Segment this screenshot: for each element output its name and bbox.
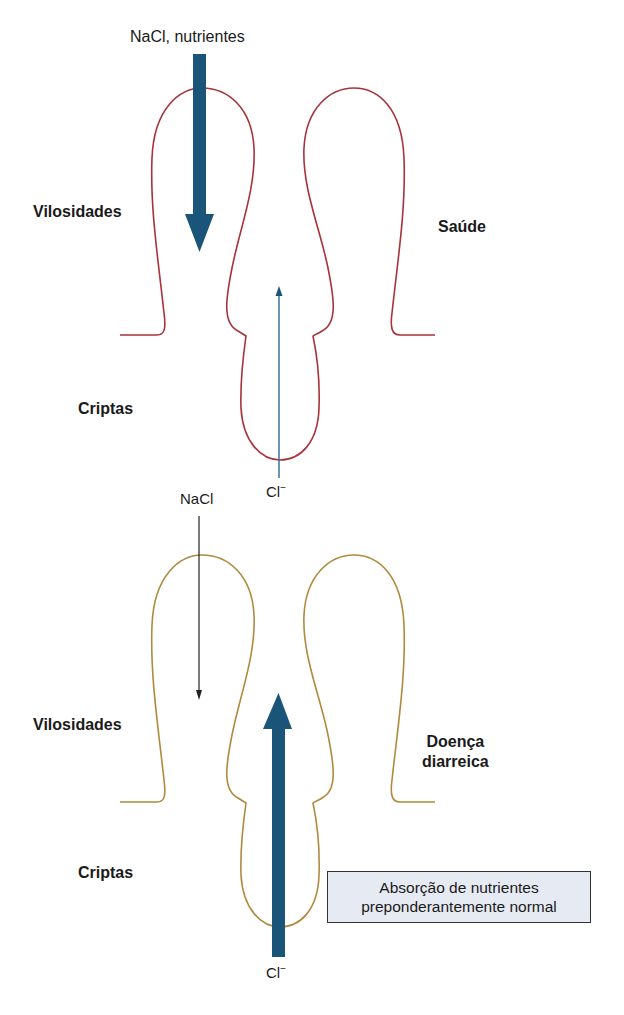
crypts-label-disease: Criptas xyxy=(78,864,133,882)
absorption-arrow-thick-down xyxy=(185,54,214,252)
villi-crypt-diagram xyxy=(0,0,624,1015)
state-label-disease: Doença diarreica xyxy=(422,732,489,772)
note-line-2: preponderantemente normal xyxy=(328,897,590,916)
chloride-charge: − xyxy=(280,482,286,493)
chloride-symbol: Cl xyxy=(266,964,280,981)
villi-label-healthy: Vilosidades xyxy=(33,203,122,221)
secretion-arrow-thick-up xyxy=(263,693,292,957)
absorption-label-disease: NaCl xyxy=(180,490,213,507)
secretion-arrow-thin-up xyxy=(276,286,283,478)
state-label-disease-line1: Doença xyxy=(422,732,489,752)
chloride-symbol: Cl xyxy=(266,483,280,500)
nutrient-absorption-note: Absorção de nutrientes preponderantement… xyxy=(327,871,591,923)
absorption-label-healthy: NaCl, nutrientes xyxy=(130,28,245,46)
villi-label-disease: Vilosidades xyxy=(33,716,122,734)
chloride-charge: − xyxy=(280,963,286,974)
chloride-label-disease: Cl− xyxy=(266,963,286,981)
state-label-disease-line2: diarreica xyxy=(422,752,489,772)
crypts-label-healthy: Criptas xyxy=(78,400,133,418)
state-label-healthy: Saúde xyxy=(438,218,486,236)
chloride-label-healthy: Cl− xyxy=(266,482,286,500)
note-line-1: Absorção de nutrientes xyxy=(328,878,590,897)
absorption-arrow-thin-down xyxy=(196,516,202,700)
healthy-villi-outline xyxy=(120,88,435,460)
